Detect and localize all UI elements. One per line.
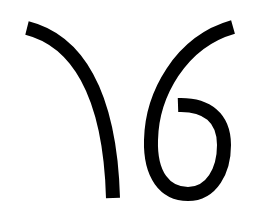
glyph-canvas: Two black calligraphic strokes forming a…	[0, 0, 253, 218]
left-stroke-icon	[27, 28, 113, 198]
stylized-mark-icon	[0, 0, 253, 218]
right-stroke-icon	[151, 27, 233, 194]
